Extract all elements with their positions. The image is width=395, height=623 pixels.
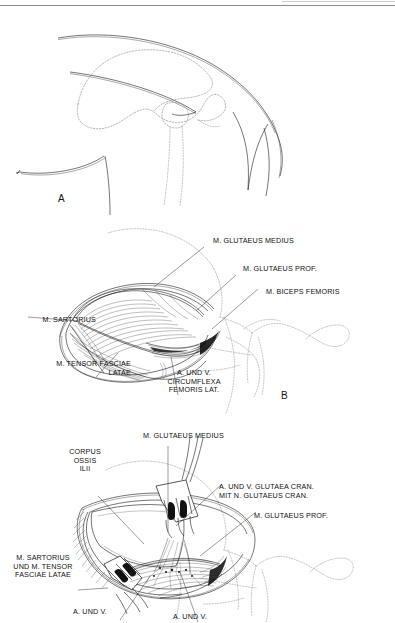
label-c-glutaeus-medius: M. GLUTAEUS MEDIUS — [143, 432, 224, 441]
anatomy-plate-page: A — [0, 0, 395, 623]
label-b-glutaeus-medius: M. GLUTAEUS MEDIUS — [213, 237, 294, 246]
panel-a-letter: A — [58, 193, 65, 204]
label-b-glutaeus-prof: M. GLUTAEUS PROF. — [243, 265, 317, 274]
label-c-arteria-vena-glutaea-cran: A. UND V. GLUTAEA CRAN. MIT N. GLUTAEUS … — [219, 483, 314, 500]
label-c-corpus-ossis-ilii: CORPUS OSSIS ILII — [56, 448, 114, 474]
panel-a-illustration — [0, 0, 395, 225]
label-c-glutaeus-prof: M. GLUTAEUS PROF. — [254, 512, 328, 521]
label-b-sartorius: M. SARTORIUS — [0, 316, 96, 325]
label-c-arteria-vena-right: A. UND V. — [162, 613, 218, 622]
panel-b-letter: B — [281, 390, 288, 401]
label-c-sartorius-tensor: M. SARTORIUS UND M. TENSOR FASCIAE LATAE — [8, 554, 78, 580]
label-b-circumflexa-femoris: A. UND V. CIRCUMFLEXA FEMORIS LAT. — [148, 369, 240, 395]
label-b-biceps-femoris: M. BICEPS FEMORIS — [266, 288, 340, 297]
label-c-arteria-vena-left: A. UND V. — [62, 608, 118, 617]
label-b-tensor-fasciae-latae: M. TENSOR FASCIAE LATAE — [0, 360, 131, 377]
